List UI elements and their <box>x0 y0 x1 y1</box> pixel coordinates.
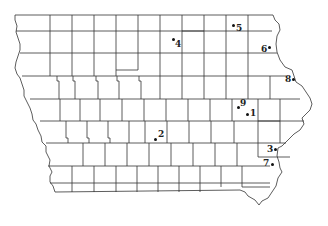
point-label-5: 5 <box>236 24 242 33</box>
point-label-1: 1 <box>250 109 256 118</box>
point-marker-7 <box>271 163 274 166</box>
point-label-7: 7 <box>263 159 269 168</box>
point-label-6: 6 <box>261 45 267 54</box>
point-marker-5 <box>232 24 235 27</box>
point-label-8: 8 <box>285 75 291 84</box>
point-marker-6 <box>268 46 271 49</box>
point-marker-3 <box>274 148 277 151</box>
state-outline <box>15 15 312 205</box>
point-marker-1 <box>246 113 249 116</box>
point-label-9: 9 <box>240 99 246 108</box>
point-label-2: 2 <box>158 130 164 139</box>
point-marker-2 <box>154 138 157 141</box>
iowa-county-map <box>0 0 328 226</box>
point-marker-8 <box>292 78 295 81</box>
point-label-4: 4 <box>175 40 181 49</box>
point-label-3: 3 <box>267 145 273 154</box>
